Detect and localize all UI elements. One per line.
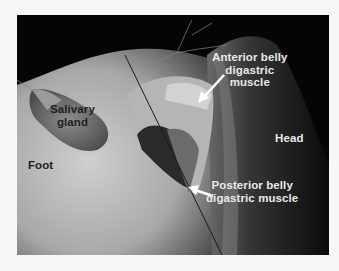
label-posterior-line2: digastric muscle xyxy=(206,192,298,205)
label-posterior-line1: Posterior belly xyxy=(206,179,298,192)
label-anterior-line3: muscle xyxy=(212,76,288,89)
label-salivary-line1: Salivary xyxy=(50,103,95,116)
label-head: Head xyxy=(275,132,304,145)
label-foot: Foot xyxy=(28,159,53,172)
dissection-photo: Anterior belly digastric muscle Posterio… xyxy=(17,15,329,255)
label-anterior-line2: digastric xyxy=(212,64,288,77)
label-anterior-line1: Anterior belly xyxy=(212,51,288,64)
label-salivary-gland: Salivary gland xyxy=(50,103,95,128)
label-salivary-line2: gland xyxy=(50,116,95,129)
label-anterior-belly: Anterior belly digastric muscle xyxy=(212,51,288,89)
label-posterior-belly: Posterior belly digastric muscle xyxy=(206,179,298,204)
